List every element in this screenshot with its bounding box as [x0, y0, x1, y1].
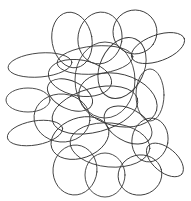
canvas-background	[0, 0, 191, 201]
scribble-drawing	[0, 0, 191, 201]
